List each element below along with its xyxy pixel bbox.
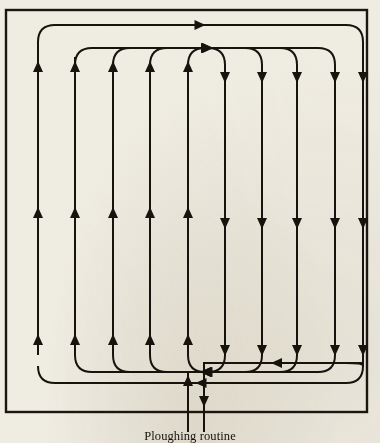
figure-caption: Ploughing routine [0,429,380,443]
ploughing-routine-diagram [0,0,380,443]
figure-root: Ploughing routine [0,0,380,443]
